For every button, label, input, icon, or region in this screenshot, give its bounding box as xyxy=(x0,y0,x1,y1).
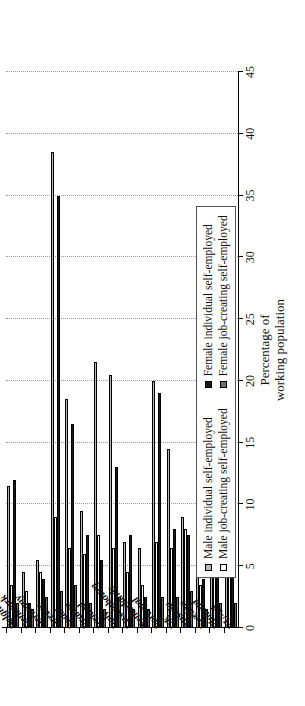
legend-label: Female job-creating self-employed xyxy=(216,215,230,376)
legend-item[interactable]: Female job-creating self-employed xyxy=(216,215,230,388)
value-axis-tick-label: 15 xyxy=(243,437,258,449)
y-axis-title: Percentage of working population xyxy=(258,72,287,628)
bar-group xyxy=(35,72,50,628)
value-axis-tick-label: 10 xyxy=(243,498,258,510)
value-axis-tick-label: 20 xyxy=(243,375,258,387)
legend-label: Male individual self-employed xyxy=(201,417,215,559)
y-axis-title-line2: working population xyxy=(273,72,288,628)
value-axis-tick-label: 40 xyxy=(243,128,258,140)
legend-swatch-icon xyxy=(220,381,227,388)
bar[interactable] xyxy=(158,393,161,628)
value-axis-tick-label: 25 xyxy=(243,313,258,325)
legend-swatch-icon xyxy=(220,564,227,571)
value-axis-tick-label: 35 xyxy=(243,190,258,202)
bar-group xyxy=(151,72,166,628)
legend-item[interactable]: Female individual self-employed xyxy=(201,215,215,388)
bar-group xyxy=(180,72,195,628)
value-axis-tick-label: 0 xyxy=(243,625,258,631)
y-axis-title-line1: Percentage of xyxy=(258,72,273,628)
chart-figure: BelgiumDenmarkGermanyGreeceSpainFranceIr… xyxy=(0,0,305,706)
bar-group xyxy=(21,72,36,628)
bar-group xyxy=(79,72,94,628)
bar-group xyxy=(122,72,137,628)
legend-swatch-icon xyxy=(205,564,212,571)
value-axis: 051015202530354045 xyxy=(238,72,254,628)
bar-group xyxy=(108,72,123,628)
value-axis-tick-label: 30 xyxy=(243,251,258,263)
rotated-figure-wrapper: BelgiumDenmarkGermanyGreeceSpainFranceIr… xyxy=(0,0,305,706)
bar-group xyxy=(50,72,65,628)
legend-label: Male job-creating self-employed xyxy=(216,408,230,559)
bar-group xyxy=(6,72,21,628)
chart-legend: Male individual self-employedFemale indi… xyxy=(196,206,236,578)
bar-group xyxy=(64,72,79,628)
legend-swatch-icon xyxy=(205,381,212,388)
value-axis-tick-label: 45 xyxy=(243,66,258,78)
legend-item[interactable]: Male individual self-employed xyxy=(201,408,215,571)
bar-group xyxy=(166,72,181,628)
bar[interactable] xyxy=(57,196,60,628)
legend-item[interactable]: Male job-creating self-employed xyxy=(216,408,230,571)
bar-group xyxy=(93,72,108,628)
bar-group xyxy=(137,72,152,628)
value-axis-tick-label: 5 xyxy=(243,563,258,569)
legend-label: Female individual self-employed xyxy=(201,224,215,376)
